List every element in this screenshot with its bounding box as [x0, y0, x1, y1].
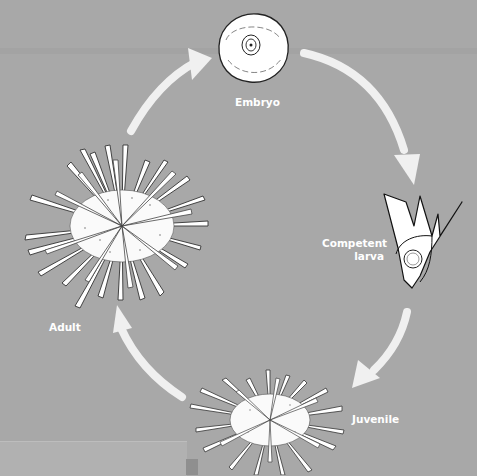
arrow-larva-to-juvenile: [352, 312, 407, 388]
adult-urchin-illustration: [25, 145, 208, 308]
label-juvenile: Juvenile: [352, 413, 399, 426]
label-embryo: Embryo: [235, 96, 280, 109]
arrow-embryo-to-larva: [304, 53, 420, 185]
juvenile-urchin-illustration: [190, 370, 344, 475]
label-adult: Adult: [49, 321, 81, 334]
competent-larva-illustration: [384, 194, 462, 288]
label-competent-larva-line2: larva: [322, 250, 384, 263]
label-competent-larva: Competent larva: [322, 237, 384, 263]
embryo-illustration: [219, 14, 288, 82]
arrow-juvenile-to-adult: [113, 305, 182, 397]
arrow-adult-to-embryo: [131, 48, 212, 131]
label-competent-larva-line1: Competent: [322, 237, 384, 250]
